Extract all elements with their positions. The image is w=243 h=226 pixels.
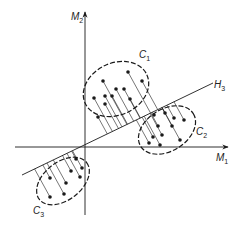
data-point: [182, 118, 186, 122]
data-point: [126, 70, 130, 74]
projection-diagram: [0, 0, 243, 226]
h3-line: [22, 83, 213, 175]
data-point: [152, 113, 156, 117]
data-point: [156, 124, 160, 128]
h3-line-label: H3: [214, 80, 225, 92]
data-point: [151, 135, 155, 139]
data-point: [92, 96, 96, 100]
data-point: [114, 87, 118, 91]
data-points: [48, 70, 186, 199]
data-point: [74, 157, 78, 161]
cluster-c1-label: C1: [139, 50, 150, 62]
data-point: [96, 115, 100, 119]
cluster-c3-label: C3: [33, 206, 44, 218]
data-point: [122, 87, 126, 91]
data-point: [101, 79, 105, 83]
data-point: [64, 181, 68, 185]
m2-axis-label: M2: [71, 12, 83, 24]
cluster-c2-label: C2: [196, 127, 207, 139]
data-point: [80, 166, 84, 170]
data-point: [163, 111, 167, 115]
data-point: [128, 97, 132, 101]
data-point: [147, 141, 151, 145]
data-point: [110, 94, 114, 98]
data-point: [62, 192, 66, 196]
data-point: [103, 94, 107, 98]
data-point: [48, 176, 52, 180]
data-point: [69, 169, 73, 173]
diagram: M2 M1 H3 C1 C2 C3: [0, 0, 243, 226]
m1-axis-label: M1: [216, 153, 228, 165]
data-point: [140, 79, 144, 83]
data-point: [172, 116, 176, 120]
data-point: [170, 124, 174, 128]
data-point: [178, 138, 182, 142]
cluster-c2-boundary: [130, 96, 205, 164]
data-point: [103, 102, 107, 106]
data-point: [158, 143, 162, 147]
data-point: [160, 133, 164, 137]
data-point: [48, 195, 52, 199]
data-point: [78, 175, 82, 179]
